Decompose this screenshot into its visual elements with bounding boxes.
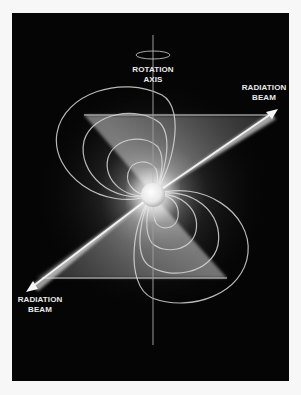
- radiation-beam-label-bottom: RADIATION BEAM: [12, 295, 68, 315]
- label-line: BEAM: [12, 305, 68, 315]
- label-line: BEAM: [238, 93, 289, 103]
- label-line: AXIS: [125, 75, 181, 85]
- radiation-beam-label-top: RADIATION BEAM: [238, 83, 289, 103]
- label-line: ROTATION: [125, 65, 181, 75]
- label-line: RADIATION: [238, 83, 289, 93]
- label-line: RADIATION: [12, 295, 68, 305]
- pulsar-diagram: ROTATION AXIS RADIATION BEAM RADIATION B…: [12, 13, 289, 381]
- rotation-axis-label: ROTATION AXIS: [125, 65, 181, 85]
- neutron-star: [141, 183, 165, 207]
